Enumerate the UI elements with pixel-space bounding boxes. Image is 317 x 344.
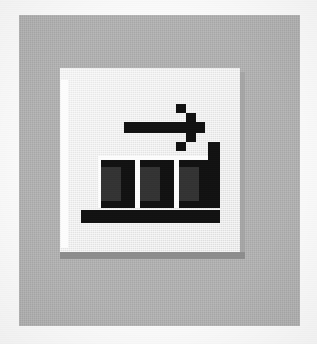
- bar-3: [179, 160, 213, 208]
- bar-chart-with-arrow-icon[interactable]: [60, 68, 240, 252]
- screenshot-root: [0, 0, 317, 344]
- bar-1: [101, 160, 135, 208]
- button-bevel-shadow-bottom: [60, 252, 245, 259]
- x-axis-line: [81, 210, 220, 223]
- right-arrow-icon: [124, 104, 205, 151]
- y-axis-line: [208, 142, 220, 208]
- button-bevel-shadow-right: [240, 72, 245, 258]
- bar-2: [140, 160, 174, 208]
